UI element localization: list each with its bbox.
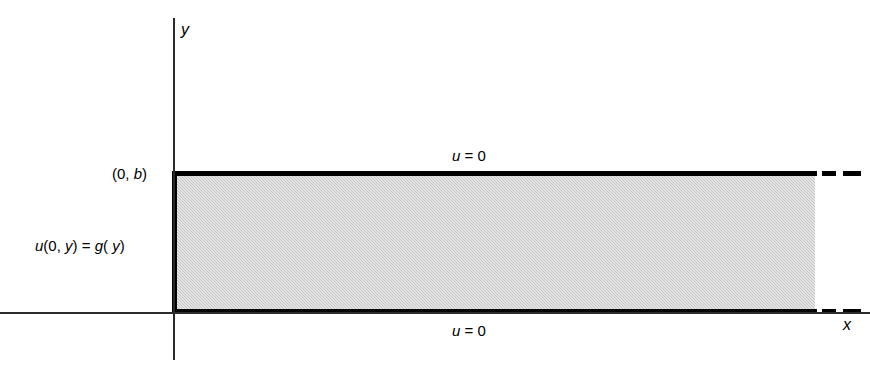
bc-g-symbol: g xyxy=(95,237,103,254)
corner-point-close: ) xyxy=(142,165,147,182)
bc-paren-open-2: ( xyxy=(103,237,112,254)
bc-y-symbol-2: y xyxy=(112,237,120,254)
bc-paren-open: (0, xyxy=(43,237,65,254)
bottom-boundary-condition-label: u = 0 xyxy=(452,323,486,338)
top-boundary-condition-label: u = 0 xyxy=(452,148,486,163)
bc-equals: ) = xyxy=(73,237,95,254)
shaded-region xyxy=(174,174,815,313)
x-axis-line xyxy=(0,312,870,314)
corner-point-b: b xyxy=(134,165,142,182)
top-bc-value: = 0 xyxy=(460,147,485,164)
left-boundary-condition-label: u(0, y) = g( y) xyxy=(35,238,125,253)
semi-infinite-strip-diagram: y x (0, b) u(0, y) = g( y) u = 0 u = 0 xyxy=(0,0,870,375)
y-axis-line xyxy=(173,18,175,360)
bottom-bc-value: = 0 xyxy=(460,322,485,339)
dash-top-segment-2 xyxy=(843,171,861,176)
boundary-edge-top xyxy=(172,171,817,176)
corner-point-open: (0, xyxy=(112,165,134,182)
x-axis-label: x xyxy=(843,317,851,333)
bc-y-symbol-1: y xyxy=(65,237,73,254)
corner-point-label: (0, b) xyxy=(112,166,147,181)
bc-paren-close-2: ) xyxy=(120,237,125,254)
y-axis-label: y xyxy=(181,22,189,38)
dash-top-segment-1 xyxy=(822,171,836,176)
